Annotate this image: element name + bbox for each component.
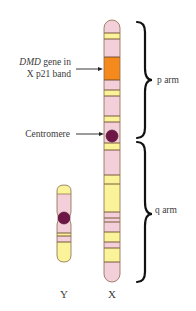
chromosome-diagram: DMD gene in X p21 band Centromere p arm … bbox=[0, 0, 196, 311]
y-chromosome-label: Y bbox=[60, 288, 68, 300]
x-band-12 bbox=[103, 184, 121, 212]
x-band-14 bbox=[103, 218, 121, 222]
centromere-arrow bbox=[76, 132, 104, 136]
x-band-5 bbox=[103, 90, 121, 96]
dmd-gene-label-line1: DMD gene in bbox=[18, 57, 71, 67]
centromere-label: Centromere bbox=[25, 129, 70, 139]
x-chromosome-label: X bbox=[108, 288, 116, 300]
x-centromere bbox=[106, 130, 118, 142]
x-band-18 bbox=[103, 248, 121, 262]
x-band-15 bbox=[103, 222, 121, 232]
x-band-6 bbox=[103, 96, 121, 116]
y-centromere bbox=[58, 212, 70, 224]
x-band-17 bbox=[103, 242, 121, 248]
x-band-10 bbox=[103, 150, 121, 175]
x-band-11 bbox=[103, 175, 121, 184]
p-arm-label: p arm bbox=[157, 75, 180, 85]
p-arm-bracket-icon bbox=[137, 22, 152, 138]
x-band-13 bbox=[103, 212, 121, 218]
x-chromosome bbox=[103, 20, 121, 282]
x-band-0 bbox=[103, 20, 121, 33]
x-band-4 bbox=[103, 80, 121, 90]
x-band-7 bbox=[103, 116, 121, 122]
x-band-16 bbox=[103, 232, 121, 242]
x-band-9 bbox=[103, 143, 121, 150]
x-band-2 bbox=[103, 39, 121, 57]
q-arm-label: q arm bbox=[155, 205, 178, 215]
y-chromosome bbox=[55, 184, 73, 263]
dmd-gene-label-line2: X p21 band bbox=[27, 69, 72, 79]
x-band-1 bbox=[103, 33, 121, 39]
dmd-arrow bbox=[76, 67, 103, 71]
q-arm-bracket-icon bbox=[137, 142, 152, 282]
x-band-3 bbox=[103, 57, 121, 80]
